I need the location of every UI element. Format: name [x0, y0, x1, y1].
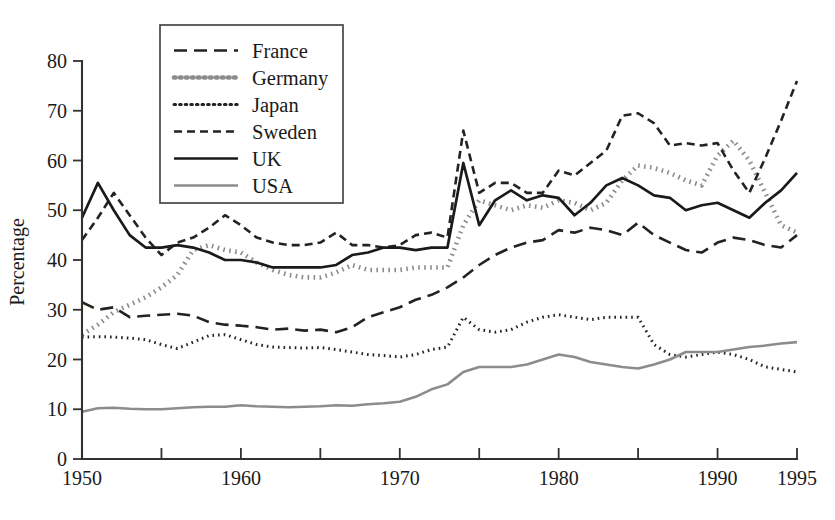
legend-label-germany: Germany	[252, 67, 329, 90]
series-line-usa	[82, 342, 797, 412]
x-tick-label: 1980	[539, 467, 579, 489]
line-chart-figure: 195019601970198019901995 010203040506070…	[0, 0, 835, 520]
x-tick-label: 1970	[380, 467, 420, 489]
y-tick-label: 40	[47, 249, 67, 271]
y-axis-title: Percentage	[6, 218, 29, 306]
y-tick-label: 50	[47, 199, 67, 221]
y-tick-label: 80	[47, 50, 67, 72]
x-tick-label: 1960	[221, 467, 261, 489]
y-tick-label: 0	[57, 448, 67, 470]
series-line-japan	[82, 315, 797, 372]
legend-label-usa: USA	[252, 175, 293, 197]
legend-label-france: France	[252, 40, 308, 62]
y-tick-label: 10	[47, 398, 67, 420]
series-line-france	[82, 223, 797, 332]
x-tick-labels: 195019601970198019901995	[62, 467, 817, 489]
x-tick-label: 1995	[777, 467, 817, 489]
legend: FranceGermanyJapanSwedenUKUSA	[160, 25, 343, 203]
x-tick-label: 1950	[62, 467, 102, 489]
legend-label-japan: Japan	[252, 94, 299, 117]
y-tick-label: 30	[47, 299, 67, 321]
x-tick-label: 1990	[698, 467, 738, 489]
y-tick-label: 20	[47, 349, 67, 371]
chart-canvas: 195019601970198019901995 010203040506070…	[0, 0, 835, 520]
legend-label-sweden: Sweden	[252, 121, 317, 143]
y-tick-labels: 01020304050607080	[47, 50, 67, 470]
y-tick-label: 60	[47, 150, 67, 172]
legend-label-uk: UK	[252, 148, 282, 170]
y-tick-label: 70	[47, 100, 67, 122]
